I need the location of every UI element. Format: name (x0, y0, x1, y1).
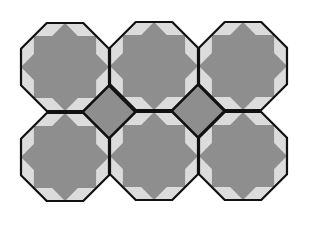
octagon-r2-c1 (21, 113, 109, 201)
tiling-pattern (0, 0, 309, 226)
octagon-r1-c3 (199, 22, 287, 110)
octagon-r1-c2 (110, 22, 198, 110)
octagon-r2-c3 (199, 112, 287, 200)
octagon-r2-c2 (110, 112, 198, 200)
octagon-tile-layer (21, 22, 287, 201)
octagon-r1-c1 (21, 23, 109, 111)
